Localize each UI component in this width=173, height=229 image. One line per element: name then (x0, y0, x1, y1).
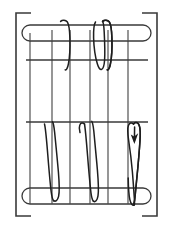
warp-over-rail-group (30, 30, 128, 204)
right-frame-bracket (142, 13, 157, 216)
top-rail (22, 25, 151, 41)
left-frame-bracket (16, 13, 31, 216)
weft-line-group (26, 60, 148, 122)
warp-line-group (30, 30, 128, 196)
bottom-rail-bar (22, 188, 151, 204)
bottom-rail (22, 188, 151, 204)
frame-stitching-diagram (0, 0, 173, 229)
lower-stitch-1-right (79, 123, 84, 133)
top-rail-bar (22, 25, 151, 41)
frame-stitching-figure (0, 0, 173, 229)
thread-direction-arrow (131, 127, 138, 144)
